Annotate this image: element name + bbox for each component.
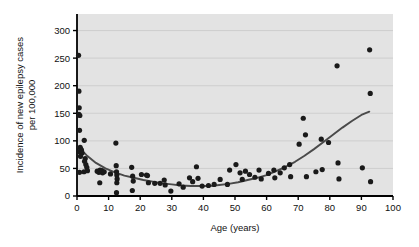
data-point — [303, 132, 308, 137]
data-point — [195, 176, 200, 181]
data-point — [237, 170, 242, 175]
data-point — [77, 105, 82, 110]
data-point — [113, 140, 118, 145]
data-point — [360, 165, 365, 170]
data-point — [233, 162, 238, 167]
data-point — [326, 140, 331, 145]
data-point — [320, 167, 325, 172]
data-point — [108, 171, 113, 176]
data-point — [368, 179, 373, 184]
data-point — [130, 188, 135, 193]
x-tick-label: 70 — [293, 202, 304, 213]
data-point — [240, 177, 245, 182]
data-point — [368, 91, 373, 96]
x-tick-label: 0 — [74, 202, 79, 213]
epilepsy-incidence-figure: 050100150200250300 010203040506070809010… — [0, 0, 419, 247]
data-point — [227, 167, 232, 172]
data-point — [319, 137, 324, 142]
data-point — [206, 183, 211, 188]
x-tick-label: 90 — [356, 202, 367, 213]
data-point — [181, 185, 186, 190]
x-tick-label: 40 — [198, 202, 209, 213]
data-point — [304, 174, 309, 179]
data-point — [252, 175, 257, 180]
x-tick-label: 50 — [230, 202, 241, 213]
data-point — [97, 180, 102, 185]
data-point — [313, 169, 318, 174]
data-point — [200, 183, 205, 188]
data-point — [194, 164, 199, 169]
data-point — [102, 169, 107, 174]
data-point — [78, 154, 83, 159]
data-point — [129, 165, 134, 170]
data-point — [130, 174, 135, 179]
y-tick-label: 0 — [65, 190, 70, 201]
data-point — [218, 177, 223, 182]
data-point — [76, 53, 81, 58]
data-point — [176, 181, 181, 186]
data-point — [278, 170, 283, 175]
data-point — [334, 63, 339, 68]
x-tick-label: 30 — [167, 202, 178, 213]
data-point — [168, 188, 173, 193]
data-point — [335, 160, 340, 165]
x-tick-label: 20 — [135, 202, 146, 213]
y-tick-label: 300 — [54, 25, 70, 36]
data-point — [212, 182, 217, 187]
data-point — [266, 171, 271, 176]
data-point — [162, 177, 167, 182]
data-point — [114, 180, 119, 185]
scatter-chart: 050100150200250300 010203040506070809010… — [0, 0, 419, 247]
data-point — [297, 142, 302, 147]
data-point — [336, 176, 341, 181]
data-point — [272, 175, 277, 180]
x-axis-title: Age (years) — [210, 222, 259, 233]
data-point — [163, 182, 168, 187]
data-point — [288, 174, 293, 179]
x-tick-label: 10 — [103, 202, 114, 213]
data-point — [139, 172, 144, 177]
data-point — [81, 169, 86, 174]
data-point — [145, 173, 150, 178]
data-point — [247, 172, 252, 177]
y-tick-label: 200 — [54, 80, 70, 91]
data-point — [146, 180, 151, 185]
data-point — [301, 116, 306, 121]
x-tick-label: 80 — [325, 202, 336, 213]
y-tick-label: 250 — [54, 53, 70, 64]
y-tick-label: 150 — [54, 108, 70, 119]
data-point — [152, 181, 157, 186]
y-tick-label: 100 — [54, 135, 70, 146]
data-point — [259, 176, 264, 181]
y-tick-label: 50 — [59, 163, 70, 174]
data-point — [256, 167, 261, 172]
data-point — [243, 169, 248, 174]
data-point — [225, 182, 230, 187]
x-tick-label: 100 — [385, 202, 401, 213]
data-point — [76, 89, 81, 94]
data-point — [190, 179, 195, 184]
data-point — [77, 113, 82, 118]
data-point — [114, 190, 119, 195]
data-point — [282, 165, 287, 170]
data-point — [131, 179, 136, 184]
x-tick-label: 60 — [261, 202, 272, 213]
data-point — [82, 138, 87, 143]
y-axis-title-line-2: per 100,000 — [26, 80, 37, 131]
data-point — [367, 47, 372, 52]
data-point — [77, 170, 82, 175]
data-point — [271, 167, 276, 172]
data-point — [287, 162, 292, 167]
y-axis-title-line-1: Incidence of new epilepsy cases — [14, 37, 25, 173]
data-point — [158, 181, 163, 186]
data-point — [114, 163, 119, 168]
data-point — [77, 128, 82, 133]
